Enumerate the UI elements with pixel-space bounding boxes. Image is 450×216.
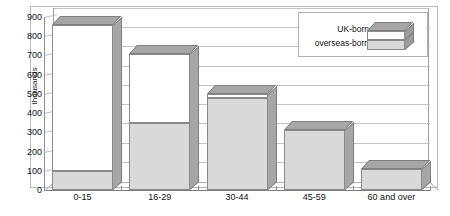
bar-top-face — [361, 160, 430, 169]
bar-column[interactable] — [52, 25, 113, 190]
bar-segment-overseas-born[interactable] — [52, 171, 113, 190]
gridline — [53, 8, 430, 9]
bar-segment-uk-born[interactable] — [207, 94, 268, 98]
y-axis-tick-label: 800 — [16, 32, 42, 41]
bar-top-face — [284, 121, 353, 130]
category-tick — [276, 186, 277, 191]
category-tick — [121, 186, 122, 191]
category-tick — [430, 186, 431, 191]
legend-swatch-face-uk-born — [367, 31, 405, 40]
bar-segment-overseas-born[interactable] — [129, 123, 190, 190]
x-axis-category-label: 60 and over — [346, 192, 436, 202]
legend-label-uk-born: UK-born — [337, 24, 369, 34]
bar-column[interactable] — [129, 54, 190, 190]
y-axis-tick-label: 500 — [16, 90, 42, 99]
bar-segment-overseas-born[interactable] — [207, 98, 268, 190]
bar-side-face — [268, 86, 277, 190]
legend-label-overseas-born: overseas-born — [315, 38, 369, 48]
category-tick — [44, 186, 45, 191]
y-axis-tick-label: 300 — [16, 128, 42, 137]
y-axis-tick-label: 400 — [16, 109, 42, 118]
chart-legend: UK-born overseas-born — [298, 12, 428, 57]
x-axis-category-labels: 0-1516-2930-4445-5960 and over — [30, 192, 438, 210]
y-axis-front-line — [44, 17, 45, 191]
y-axis-tick-label: 700 — [16, 51, 42, 60]
category-tick — [198, 186, 199, 191]
bar-top-face — [129, 45, 198, 54]
y-axis-tick-label: 200 — [16, 148, 42, 157]
bar-column[interactable] — [207, 94, 268, 190]
bar-top-face — [207, 85, 276, 94]
bar-column[interactable] — [361, 169, 422, 190]
x-axis-front-line — [44, 190, 430, 191]
bar-segment-uk-born[interactable] — [52, 25, 113, 171]
y-axis-tick-label: 600 — [16, 71, 42, 80]
y-axis-tick-labels: 9008007006005004003002001000 — [16, 0, 42, 216]
y-axis-tick-label: 900 — [16, 13, 42, 22]
chart-root: thousands 9008007006005004003002001000 0… — [0, 0, 450, 216]
category-tick — [353, 186, 354, 191]
legend-swatch-face-overseas-born — [367, 40, 405, 50]
bar-side-face — [345, 122, 354, 190]
bar-top-face — [52, 16, 121, 25]
y-axis-tick-label: 100 — [16, 167, 42, 176]
bar-column[interactable] — [284, 130, 345, 190]
bar-segment-uk-born[interactable] — [129, 54, 190, 123]
legend-swatch-3d — [367, 22, 411, 50]
bar-segment-overseas-born[interactable] — [361, 169, 422, 190]
bar-side-face — [113, 17, 122, 190]
bar-segment-overseas-born[interactable] — [284, 130, 345, 190]
bar-side-face — [190, 45, 199, 190]
